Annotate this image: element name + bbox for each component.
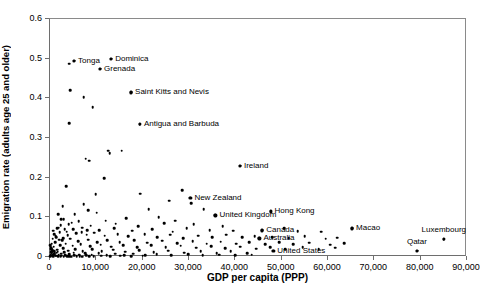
scatter-point <box>112 249 115 252</box>
scatter-point <box>324 237 327 240</box>
scatter-point <box>132 253 135 256</box>
point-label-hong-kong: Hong Kong <box>275 207 315 215</box>
scatter-point <box>174 219 177 222</box>
scatter-point <box>130 255 133 258</box>
point-label-united-kingdom: United Kingdom <box>219 211 276 219</box>
x-tick-mark <box>281 256 282 260</box>
scatter-point <box>329 243 332 246</box>
y-tick-label: 0.2 <box>16 172 42 182</box>
scatter-point <box>75 232 78 235</box>
x-tick-label: 70,000 <box>360 262 388 272</box>
scatter-point <box>89 224 92 227</box>
scatter-point <box>61 205 64 208</box>
x-tick-label: 0 <box>46 262 51 272</box>
scatter-point <box>269 246 272 249</box>
scatter-point <box>336 236 339 239</box>
scatter-point <box>308 241 311 244</box>
scatter-point <box>81 255 84 258</box>
point-label-qatar: Qatar <box>407 238 427 246</box>
scatter-point <box>169 233 172 236</box>
scatter-point <box>192 223 195 226</box>
scatter-point <box>73 213 76 216</box>
scatter-point <box>124 251 127 254</box>
scatter-point <box>95 211 98 214</box>
x-tick-label: 40,000 <box>221 262 249 272</box>
plot-area: TongaDominicaGrenadaSaint Kitts and Nevi… <box>49 18 466 256</box>
x-tick-mark <box>327 256 328 260</box>
point-label-luxembourg: Luxembourg <box>422 226 466 234</box>
scatter-point <box>209 229 212 232</box>
scatter-point <box>121 149 124 152</box>
scatter-point <box>211 236 214 239</box>
scatter-point <box>182 237 185 240</box>
scatter-point <box>88 255 91 258</box>
scatter-point <box>105 254 108 257</box>
scatter-point <box>191 240 194 243</box>
scatter-point <box>71 245 74 248</box>
scatter-point <box>167 249 170 252</box>
x-tick-mark <box>420 256 421 260</box>
scatter-point <box>197 234 200 237</box>
scatter-point <box>125 217 128 220</box>
y-tick-label: 0.6 <box>16 13 42 23</box>
x-tick-mark <box>466 256 467 260</box>
scatter-point <box>80 231 83 234</box>
scatter-point <box>190 202 193 205</box>
scatter-point <box>210 245 213 248</box>
point-label-macao: Macao <box>356 224 380 232</box>
scatter-point <box>156 236 159 239</box>
scatter-point <box>185 227 188 230</box>
scatter-point <box>87 238 90 241</box>
scatter-point <box>146 241 149 244</box>
scatter-point <box>139 192 142 195</box>
scatter-point <box>95 193 98 196</box>
scatter-point <box>246 252 249 255</box>
x-tick-label: 10,000 <box>82 262 110 272</box>
scatter-point <box>171 230 174 233</box>
x-tick-label: 60,000 <box>313 262 341 272</box>
point-label-ireland: Ireland <box>244 162 268 170</box>
x-tick-mark <box>373 256 374 260</box>
y-tick-label: 0.1 <box>16 211 42 221</box>
scatter-point <box>144 254 147 257</box>
scatter-point <box>77 240 80 243</box>
scatter-point <box>235 242 238 245</box>
y-tick-label: 0.4 <box>16 92 42 102</box>
scatter-point <box>74 248 77 251</box>
chart-root: Emigration rate (adults age 25 and older… <box>0 0 495 297</box>
scatter-point <box>51 237 54 240</box>
scatter-point <box>54 241 57 244</box>
scatter-point <box>253 235 256 238</box>
scatter-point <box>229 250 232 253</box>
scatter-point <box>108 152 111 155</box>
point-label-tonga: Tonga <box>78 57 100 65</box>
scatter-point <box>137 225 140 228</box>
scatter-point <box>72 228 75 231</box>
scatter-point <box>151 228 154 231</box>
scatter-point <box>170 254 173 257</box>
scatter-point <box>66 234 69 237</box>
scatter-point <box>65 185 68 188</box>
scatter-point <box>88 159 91 162</box>
point-label-dominica: Dominica <box>115 55 148 63</box>
scatter-point <box>66 255 69 258</box>
scatter-point <box>264 243 267 246</box>
scatter-point <box>68 122 71 125</box>
scatter-point <box>85 233 88 236</box>
point-label-saint-kitts-and-nevis: Saint Kitts and Nevis <box>135 88 209 96</box>
scatter-point <box>179 245 182 248</box>
scatter-point <box>131 230 134 233</box>
scatter-point <box>250 253 253 256</box>
scatter-point <box>163 222 166 225</box>
scatter-point <box>98 229 101 232</box>
x-tick-label: 80,000 <box>406 262 434 272</box>
scatter-point <box>304 235 307 238</box>
scatter-point <box>343 242 346 245</box>
scatter-point <box>127 235 130 238</box>
scatter-point <box>96 241 99 244</box>
scatter-point <box>57 213 60 216</box>
scatter-point <box>67 223 70 226</box>
point-label-new-zealand: New Zealand <box>194 194 241 202</box>
scatter-point <box>87 209 90 212</box>
scatter-point <box>320 230 323 233</box>
